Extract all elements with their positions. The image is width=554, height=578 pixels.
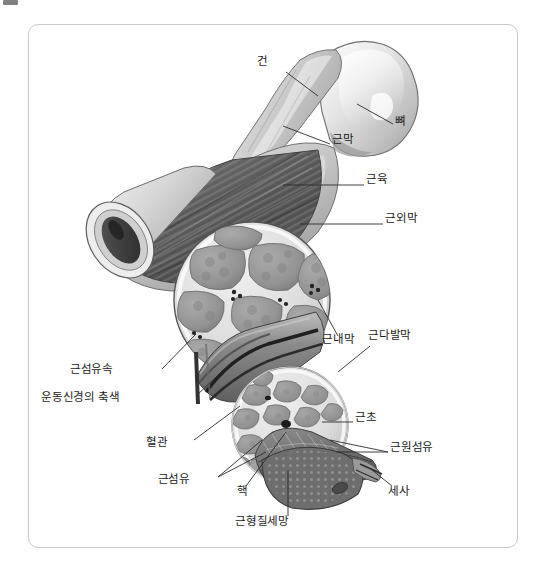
label-motor-axon: 운동신경의 축색 (0, 391, 120, 404)
myofibril-cut-face (262, 447, 363, 509)
label-bone: 뼈 (395, 115, 406, 128)
label-muscle: 근육 (366, 173, 388, 186)
label-epimysium: 근외막 (385, 212, 417, 225)
label-sarcoplasmic-reticulum: 근형질세망 (222, 515, 302, 528)
label-endomysium: 근내막 (322, 333, 354, 346)
label-sarcolemma: 근초 (355, 411, 377, 424)
label-blood-vessel: 혈관 (0, 436, 168, 449)
label-fascia: 근막 (332, 133, 354, 146)
label-nucleus: 핵 (202, 485, 282, 498)
label-perimysium: 근다발막 (368, 329, 411, 342)
label-myofibril: 근원섬유 (390, 441, 433, 454)
label-thin-filament: 세사 (388, 485, 410, 498)
label-fascicle: 근섬유속 (0, 363, 113, 376)
label-tendon: 건 (0, 55, 268, 68)
label-muscle-fiber: 근섬유 (0, 473, 190, 486)
